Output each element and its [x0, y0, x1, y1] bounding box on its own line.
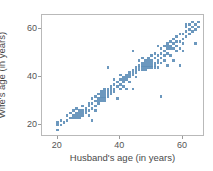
plot-area: [41, 14, 204, 136]
data-point: [135, 76, 138, 79]
data-point: [88, 114, 91, 117]
data-point: [197, 26, 200, 29]
data-point: [113, 90, 116, 93]
data-point: [56, 129, 59, 132]
data-point: [110, 93, 113, 96]
data-point: [132, 88, 135, 91]
data-point: [128, 76, 131, 79]
data-point: [66, 119, 69, 122]
data-point: [185, 35, 188, 38]
data-point: [107, 66, 110, 69]
data-point: [125, 88, 128, 91]
data-point: [63, 121, 66, 124]
x-axis-label: Husband's age (in years): [41, 152, 204, 163]
data-point: [194, 42, 197, 45]
data-point: [182, 38, 185, 41]
data-point: [97, 102, 100, 105]
data-point: [172, 59, 175, 62]
data-point: [175, 35, 178, 38]
data-point: [169, 54, 172, 57]
data-point: [60, 124, 63, 127]
data-point: [197, 21, 200, 24]
data-point: [103, 100, 106, 103]
y-axis-label: Wife's age (in years): [0, 32, 7, 118]
y-tick-label: 40: [27, 71, 37, 81]
x-tick-mark: [119, 136, 120, 139]
data-point: [182, 50, 185, 53]
data-point: [107, 95, 110, 98]
x-tick-mark: [57, 136, 58, 139]
data-point: [188, 33, 191, 36]
data-point: [94, 105, 97, 108]
data-point: [135, 71, 138, 74]
data-point: [144, 69, 147, 72]
data-point: [116, 97, 119, 100]
y-tick-label: 20: [27, 119, 37, 129]
data-point: [132, 50, 135, 53]
data-point: [166, 64, 169, 67]
data-point: [179, 64, 182, 67]
data-point: [88, 109, 91, 112]
y-tick-mark: [38, 76, 41, 77]
x-tick-label: 60: [177, 140, 187, 150]
data-point: [160, 62, 163, 65]
data-point: [160, 95, 163, 98]
data-point: [81, 114, 84, 117]
data-point: [194, 28, 197, 31]
data-point: [163, 59, 166, 62]
scatter-plot-figure: 204060204060 Husband's age (in years) Wi…: [0, 0, 213, 171]
data-point: [128, 81, 131, 84]
y-tick-mark: [38, 28, 41, 29]
y-tick-label: 60: [27, 23, 37, 33]
x-tick-label: 40: [114, 140, 124, 150]
data-point: [119, 88, 122, 91]
data-point: [175, 50, 178, 53]
data-points-layer: [42, 15, 203, 135]
y-tick-mark: [38, 124, 41, 125]
data-point: [163, 54, 166, 57]
data-point: [191, 30, 194, 33]
data-point: [157, 66, 160, 69]
data-point: [122, 81, 125, 84]
x-tick-label: 20: [52, 140, 62, 150]
data-point: [94, 109, 97, 112]
data-point: [182, 42, 185, 45]
x-tick-mark: [182, 136, 183, 139]
data-point: [91, 119, 94, 122]
data-point: [78, 117, 81, 120]
